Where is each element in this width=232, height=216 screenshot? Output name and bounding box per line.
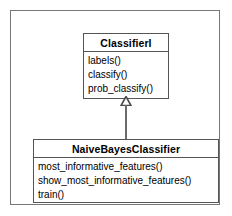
class-member: most_informative_features() — [38, 160, 218, 174]
class-name-classifier-i: ClassifierI — [84, 34, 168, 52]
generalization-connector-line — [125, 105, 127, 139]
uml-class-box-naive-bayes-classifier[interactable]: NaiveBayesClassifier most_informative_fe… — [33, 139, 219, 203]
class-members-classifier-i: labels() classify() prob_classify() — [84, 52, 168, 98]
class-members-naive-bayes-classifier: most_informative_features() show_most_in… — [34, 158, 218, 204]
class-member: show_most_informative_features() — [38, 174, 218, 188]
class-member: prob_classify() — [88, 82, 168, 96]
uml-class-diagram: ClassifierI labels() classify() prob_cla… — [0, 0, 232, 216]
diagram-frame: ClassifierI labels() classify() prob_cla… — [10, 10, 220, 205]
class-member: labels() — [88, 54, 168, 68]
class-member: train() — [38, 188, 218, 202]
class-name-naive-bayes-classifier: NaiveBayesClassifier — [34, 140, 218, 158]
uml-class-box-classifier-i[interactable]: ClassifierI labels() classify() prob_cla… — [83, 33, 169, 99]
class-member: classify() — [88, 68, 168, 82]
